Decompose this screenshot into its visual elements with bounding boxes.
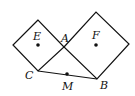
- label-e: E: [32, 30, 41, 43]
- point-f: [94, 43, 98, 47]
- label-b: B: [99, 79, 108, 92]
- geometry-diagram: E A F C M B: [0, 0, 135, 96]
- label-m: M: [61, 80, 74, 93]
- label-f: F: [91, 29, 100, 42]
- point-e: [36, 43, 40, 47]
- point-m: [65, 72, 69, 76]
- label-c: C: [25, 69, 34, 82]
- label-a: A: [60, 32, 69, 45]
